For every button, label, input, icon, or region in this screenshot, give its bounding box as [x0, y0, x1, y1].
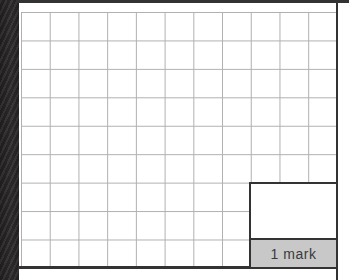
binding-shadow-bar: [0, 0, 19, 280]
scanned-page: 1 mark: [0, 0, 351, 280]
mark-box-blank-space: [251, 184, 336, 238]
box-top-border: [18, 0, 349, 3]
mark-box: 1 mark: [249, 182, 338, 269]
mark-label: 1 mark: [271, 247, 317, 261]
mark-strip: 1 mark: [251, 238, 336, 267]
